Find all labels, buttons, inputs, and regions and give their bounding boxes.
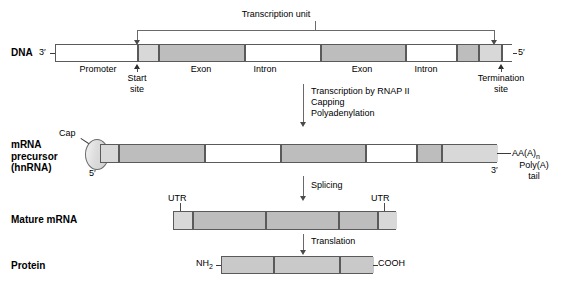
dna-segment-exon-3 xyxy=(457,45,479,61)
dna-segment-exon-1 xyxy=(159,45,245,61)
row-label-protein: Protein xyxy=(11,260,45,272)
protein-n-terminus-label: NH2 xyxy=(196,258,213,272)
dna-label-intron-2: Intron xyxy=(386,64,466,75)
dna-segment-intron-1 xyxy=(245,45,321,61)
mature-utr-right-label: UTR xyxy=(371,193,390,204)
precursor-segment-intron-1 xyxy=(205,145,281,162)
row-label-mrna-precursor: mRNA precursor (hnRNA) xyxy=(11,139,58,174)
dna-label-intron-1: Intron xyxy=(225,64,305,75)
transcription-step-line-3: Polyadenylation xyxy=(311,108,375,119)
mature-utr-left-tick xyxy=(180,203,181,211)
dna-segment-intron-2 xyxy=(406,45,457,61)
mature-segment-exon-2 xyxy=(266,212,339,229)
dna-segment-promoter xyxy=(56,45,138,61)
dna-segment-utr-5prime xyxy=(138,45,159,61)
translation-step-label: Translation xyxy=(311,236,355,247)
splicing-step-arrow-line xyxy=(303,176,304,198)
protein-bar xyxy=(221,256,373,274)
transcription-step-line-2: Capping xyxy=(311,97,345,108)
mrna-precursor-bar xyxy=(100,144,497,163)
transcription-unit-bracket-top xyxy=(137,30,495,31)
cap-label: Cap xyxy=(59,128,76,139)
dna-segment-utr-3prime xyxy=(479,45,502,61)
precursor-segment-exon-2 xyxy=(281,145,366,162)
dna-left-end-label: 3′ xyxy=(39,47,46,57)
dna-right-end-label: 5′ xyxy=(518,47,525,57)
transcription-unit-bracket-stem xyxy=(315,21,316,31)
precursor-segment-exon-1 xyxy=(119,145,205,162)
transcription-step-arrow-line xyxy=(303,84,304,124)
protein-segment-2 xyxy=(274,257,340,273)
mature-segment-exon-3 xyxy=(339,212,378,229)
poly-a-subscript: n xyxy=(536,153,540,160)
protein-n-terminus-subscript: 2 xyxy=(209,263,213,270)
precursor-segment-intron-2 xyxy=(366,145,417,162)
transcription-unit-title: Transcription unit xyxy=(196,9,356,20)
protein-segment-1 xyxy=(222,257,274,273)
mature-utr-left-label: UTR xyxy=(168,193,187,204)
row-label-mature-mrna: Mature mRNA xyxy=(11,214,77,226)
dna-bar xyxy=(55,44,512,62)
row-label-dna: DNA xyxy=(11,47,33,59)
translation-step-arrow-head xyxy=(300,250,306,255)
splicing-step-label: Splicing xyxy=(311,180,343,191)
start-site-tick xyxy=(137,68,138,72)
splicing-step-arrow-head xyxy=(300,196,306,201)
precursor-5prime-label: 5′ xyxy=(89,168,96,178)
poly-a-tail-line xyxy=(497,153,511,154)
mature-segment-utr-5prime xyxy=(174,212,193,229)
gene-expression-diagram: Transcription unit DNA 3′ 5′ Promoter Ex… xyxy=(0,0,567,285)
transcription-step-line-1: Transcription by RNAP II xyxy=(311,86,410,97)
mature-utr-right-tick xyxy=(384,203,385,211)
termination-site-label: Termination site xyxy=(470,73,532,94)
precursor-segment-exon-3 xyxy=(417,145,442,162)
dna-segment-exon-2 xyxy=(321,45,406,61)
precursor-segment-utr-5prime xyxy=(101,145,119,162)
protein-c-terminus-label: COOH xyxy=(378,258,405,269)
transcription-step-arrow-head xyxy=(300,122,306,127)
precursor-3prime-label: 3′ xyxy=(491,165,498,175)
mature-segment-utr-3prime xyxy=(378,212,397,229)
mature-segment-exon-1 xyxy=(193,212,266,229)
termination-site-tick xyxy=(501,68,502,72)
poly-a-tail-label: Poly(A) tail xyxy=(505,160,563,181)
mature-mrna-bar xyxy=(173,211,396,230)
precursor-segment-utr-3prime xyxy=(442,145,498,162)
protein-segment-3 xyxy=(340,257,374,273)
dna-segment-terminator xyxy=(502,45,513,61)
start-site-label: Start site xyxy=(107,73,167,94)
